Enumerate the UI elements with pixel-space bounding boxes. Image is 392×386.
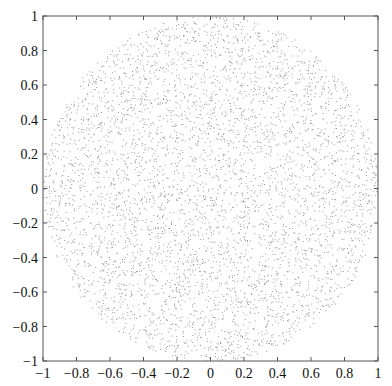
y-tick-label: −0.6 bbox=[13, 285, 38, 300]
y-tick-label: 1 bbox=[31, 9, 38, 24]
y-tick-label: −0.8 bbox=[13, 320, 38, 335]
x-tick-label: −0.6 bbox=[97, 366, 122, 381]
x-tick-label: 1 bbox=[375, 366, 382, 381]
chart-background bbox=[0, 0, 392, 386]
y-tick-label: 0.8 bbox=[21, 44, 39, 59]
x-tick-label: −0.8 bbox=[64, 366, 89, 381]
x-tick-label: 0.8 bbox=[336, 366, 354, 381]
x-tick-label: 0.4 bbox=[269, 366, 287, 381]
y-tick-label: 0 bbox=[31, 182, 38, 197]
y-tick-label: 0.4 bbox=[21, 113, 39, 128]
y-tick-label: 0.2 bbox=[21, 147, 39, 162]
y-tick-label: −1 bbox=[23, 354, 38, 369]
y-tick-label: −0.2 bbox=[13, 216, 38, 231]
y-tick-label: −0.4 bbox=[13, 251, 38, 266]
x-tick-label: 0 bbox=[207, 366, 214, 381]
x-tick-label: 0.2 bbox=[235, 366, 253, 381]
y-tick-label: 0.6 bbox=[21, 78, 39, 93]
x-tick-label: −0.4 bbox=[131, 366, 156, 381]
x-tick-label: 0.6 bbox=[302, 366, 320, 381]
scatter-chart: −1−0.8−0.6−0.4−0.200.20.40.60.81 −1−0.8−… bbox=[0, 0, 392, 386]
x-tick-label: −0.2 bbox=[164, 366, 189, 381]
